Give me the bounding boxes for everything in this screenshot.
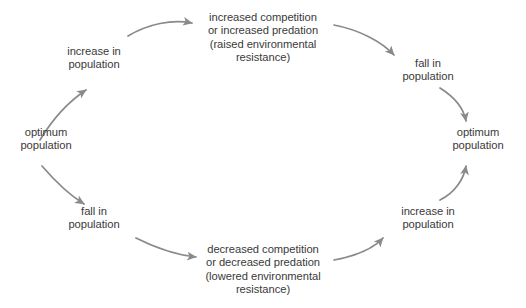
node-decreased-competition-bottom: decreased competition or decreased preda… [192,243,334,297]
node-optimum-population-left: optimum population [0,126,92,153]
arrow-top-to-fall-upper [334,25,394,55]
node-fall-in-population-lower-left: fall in population [44,205,144,232]
arrow-optimum-left-to-fall-lower [42,166,84,204]
arrow-bottom-to-increase-lower [334,238,383,260]
population-cycle-diagram: optimum population increase in populatio… [0,0,526,308]
arrow-increase-upper-to-top [128,22,192,36]
arrow-fall-lower-to-bottom [136,238,196,257]
node-increased-competition-top: increased competition or increased preda… [192,11,334,65]
node-optimum-population-right: optimum population [432,126,524,153]
node-increase-in-population-lower-right: increase in population [378,205,478,232]
node-fall-in-population-upper-right: fall in population [378,57,478,84]
arrow-increase-lower-to-optimum-right [440,166,466,200]
node-increase-in-population-upper-left: increase in population [44,45,144,72]
arrow-fall-upper-to-optimum-right [440,88,466,121]
